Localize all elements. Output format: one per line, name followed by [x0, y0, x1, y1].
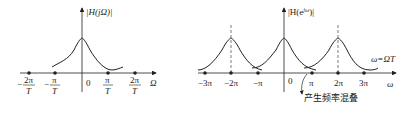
left-chart: |H(jΩ)| Ω 0 − 2π T − π T π T 2π T — [17, 7, 157, 96]
left-tick-pi: π T — [103, 75, 113, 96]
right-tick-neg-2pi: −2π — [224, 78, 239, 88]
right-curve-peak-2pi — [304, 38, 378, 70]
tick-dot — [362, 71, 366, 75]
svg-text:−: − — [17, 79, 22, 89]
right-origin-label: 0 — [288, 76, 293, 86]
svg-text:T: T — [26, 86, 32, 96]
left-tick-2pi: 2π T — [129, 75, 141, 96]
svg-text:2π: 2π — [24, 75, 34, 85]
left-x-label: Ω — [150, 78, 157, 88]
right-tick-pi: π — [309, 78, 314, 88]
right-x-label: ω — [387, 79, 393, 89]
svg-text:T: T — [132, 86, 138, 96]
tick-dot — [336, 71, 340, 75]
svg-text:−: − — [44, 79, 49, 89]
right-tick-3pi: 3π — [359, 78, 369, 88]
left-tick-neg-2pi: − 2π T — [17, 75, 35, 96]
left-curve — [52, 38, 123, 70]
right-tick-neg-3pi: −3π — [198, 78, 213, 88]
right-curve-peak-neg-2pi — [198, 38, 262, 70]
left-tick-neg-pi: − π T — [44, 75, 60, 96]
svg-text:π: π — [105, 75, 110, 85]
tick-dot — [203, 71, 207, 75]
aliasing-annotation: 产生频率混叠 — [304, 92, 358, 103]
svg-text:π: π — [52, 75, 57, 85]
right-tick-neg-pi: −π — [253, 78, 263, 88]
svg-text:T: T — [52, 86, 58, 96]
right-y-label: |H(ejω)| — [288, 7, 314, 17]
right-chart: |H(ejω)| ω 0 ω=ΩT −3π −2π −π π 2π 3π 产生频… — [198, 7, 396, 103]
tick-dot — [256, 71, 260, 75]
left-origin-label: 0 — [86, 78, 91, 88]
diagram-canvas: |H(jΩ)| Ω 0 − 2π T − π T π T 2π T — [0, 0, 412, 113]
left-y-label: |H(jΩ)| — [86, 7, 112, 17]
aliasing-arrow — [302, 74, 307, 94]
right-tick-2pi: 2π — [334, 78, 344, 88]
tick-dot — [229, 71, 233, 75]
tick-dot — [310, 71, 314, 75]
svg-text:2π: 2π — [130, 75, 140, 85]
svg-text:T: T — [105, 86, 111, 96]
mapping-label: ω=ΩT — [371, 54, 396, 64]
